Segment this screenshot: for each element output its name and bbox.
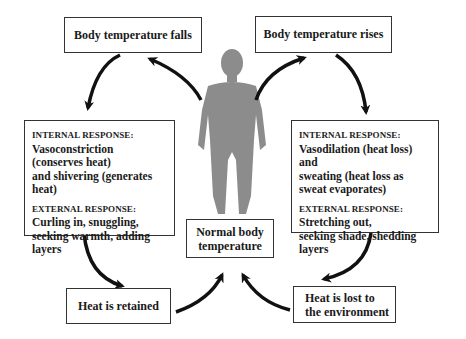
node-body-temperature-rises: Body temperature rises: [255, 16, 392, 53]
internal-response-heading: INTERNAL RESPONSE:: [299, 129, 432, 143]
normal-label-line2: temperature: [198, 239, 262, 253]
cold-internal-line: (conserves heat): [32, 156, 168, 170]
falls-label: Body temperature falls: [74, 28, 192, 43]
human-figure-icon: [198, 49, 266, 214]
external-response-heading: EXTERNAL RESPONSE:: [299, 203, 432, 217]
lost-label-line2: the environment: [305, 305, 395, 319]
heat-external-line: Stretching out,: [299, 216, 432, 230]
arrow-figure-to-rises: [256, 58, 304, 100]
arrow-lost-to-normal: [243, 275, 290, 310]
node-heat-is-retained: Heat is retained: [66, 288, 171, 324]
node-cold-response: INTERNAL RESPONSE: Vasoconstriction (con…: [24, 120, 175, 236]
rises-label: Body temperature rises: [264, 27, 384, 42]
node-normal-body-temperature: Normal body temperature: [186, 219, 274, 258]
heat-internal-line: sweating (heat loss as: [299, 170, 432, 184]
node-heat-is-lost: Heat is lost to the environment: [293, 286, 396, 323]
retained-label: Heat is retained: [78, 299, 159, 314]
node-body-temperature-falls: Body temperature falls: [64, 17, 202, 53]
heat-external-line: seeking shade, shedding layers: [299, 230, 432, 257]
arrow-falls-to-cold-response: [88, 55, 120, 108]
arrow-retained-to-normal: [176, 275, 222, 312]
arrow-figure-to-falls: [150, 59, 201, 100]
heat-internal-line: Vasodilation (heat loss) and: [299, 143, 432, 170]
heat-internal-line: sweat evaporates): [299, 183, 432, 197]
node-heat-response: INTERNAL RESPONSE: Vasodilation (heat lo…: [291, 120, 439, 233]
arrow-rises-to-heat-response: [336, 55, 366, 112]
lost-label-line1: Heat is lost to: [305, 291, 395, 305]
cold-internal-line: and shivering (generates heat): [32, 170, 168, 197]
cold-external-line: seeking warmth, adding layers: [32, 230, 168, 257]
internal-response-heading: INTERNAL RESPONSE:: [32, 129, 168, 143]
normal-label-line1: Normal body: [196, 225, 264, 239]
cold-external-line: Curling in, snuggling,: [32, 216, 168, 230]
external-response-heading: EXTERNAL RESPONSE:: [32, 203, 168, 217]
cold-internal-line: Vasoconstriction: [32, 143, 168, 157]
